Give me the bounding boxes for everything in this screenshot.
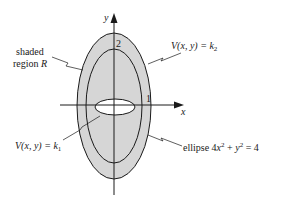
y-axis-label: y xyxy=(104,13,108,23)
ellipse-text: ellipse 4 xyxy=(183,142,217,153)
level-k2-subscript: 2 xyxy=(214,45,218,53)
ellipse-rhs: = 4 xyxy=(243,142,259,153)
ellipse-equation-label: ellipse 4x2 + y2 = 4 xyxy=(183,142,259,153)
y-tick-label: 2 xyxy=(116,39,121,49)
level-k1-subscript: 1 xyxy=(58,145,62,153)
leader-k2 xyxy=(148,53,181,64)
diagram-canvas xyxy=(0,0,281,204)
level-k2-label: V(x, y) = k2 xyxy=(171,41,217,53)
level-k1-label: V(x, y) = k1 xyxy=(15,141,61,153)
shaded-region-label-line1: shaded xyxy=(16,47,44,57)
region-var: R xyxy=(41,58,47,69)
level-curve-k1 xyxy=(95,99,135,115)
shaded-region-label-line2: region R xyxy=(13,59,47,69)
y-axis-arrow-icon xyxy=(111,13,118,23)
x-tick-label: 1 xyxy=(146,94,151,104)
level-k1-text: V(x, y) = k xyxy=(15,140,58,151)
leader-shaded-region xyxy=(52,57,83,70)
leader-ellipse xyxy=(148,135,182,146)
level-k2-text: V(x, y) = k xyxy=(171,40,214,51)
x-axis-label: x xyxy=(181,107,185,117)
region-word: region xyxy=(13,58,39,69)
ellipse-plus: + xyxy=(225,142,236,153)
